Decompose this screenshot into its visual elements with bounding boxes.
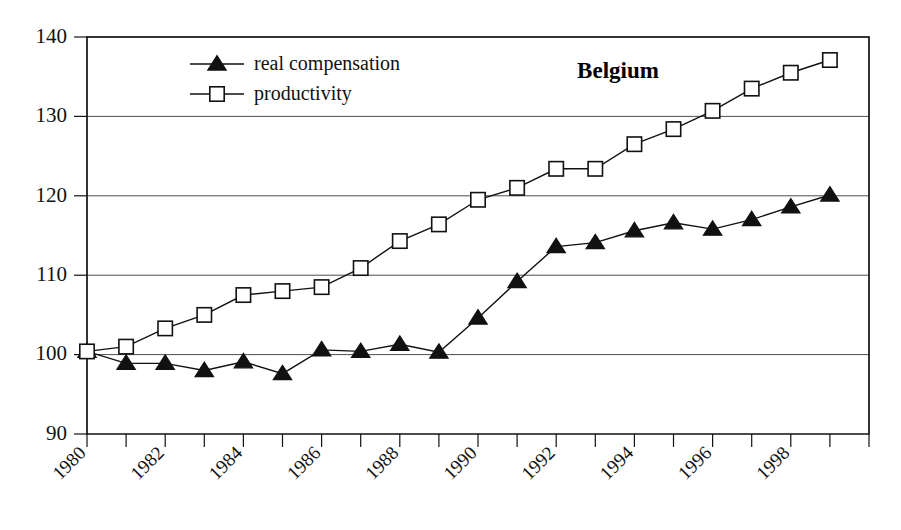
data-point-marker	[784, 66, 798, 80]
data-point-marker	[821, 187, 839, 201]
data-point-marker	[393, 234, 407, 248]
x-axis-ticks	[87, 434, 869, 447]
data-point-marker	[117, 355, 135, 369]
data-point-marker	[236, 288, 250, 302]
data-point-marker	[156, 355, 174, 369]
chart-legend: real compensationproductivity	[190, 52, 400, 105]
y-tick-label: 120	[36, 183, 68, 207]
y-axis-labels: 90100110120130140	[36, 24, 68, 445]
data-point-marker	[705, 104, 719, 118]
data-point-marker	[275, 284, 289, 298]
x-axis-labels: 1980198219841986198819901992199419961998	[48, 442, 794, 484]
data-point-marker	[80, 344, 94, 358]
data-point-marker	[666, 122, 680, 136]
data-point-marker	[588, 162, 602, 176]
data-point-marker	[314, 280, 328, 294]
series-real-compensation	[78, 187, 839, 380]
data-point-marker	[782, 199, 800, 213]
legend-marker-open-square	[210, 87, 224, 101]
x-tick-label: 1984	[205, 442, 247, 484]
legend-entry: productivity	[190, 82, 352, 105]
chart-title: Belgium	[577, 58, 659, 83]
x-tick-label: 1986	[283, 442, 325, 484]
data-point-marker	[273, 365, 291, 379]
x-tick-label: 1988	[361, 442, 403, 484]
y-tick-label: 90	[46, 421, 67, 445]
data-point-marker	[627, 137, 641, 151]
x-tick-label: 1994	[596, 442, 638, 484]
data-point-marker	[586, 234, 604, 248]
data-point-marker	[119, 339, 133, 353]
x-tick-label: 1996	[674, 442, 716, 484]
data-point-marker	[510, 181, 524, 195]
legend-marker-filled-triangle	[208, 56, 226, 70]
data-point-marker	[197, 308, 211, 322]
data-point-marker	[432, 217, 446, 231]
y-tick-label: 100	[36, 341, 68, 365]
x-tick-label: 1982	[126, 442, 168, 484]
data-point-marker	[234, 353, 252, 367]
data-point-marker	[823, 53, 837, 67]
data-point-marker	[158, 321, 172, 335]
y-tick-label: 110	[36, 262, 67, 286]
chart-container: 1980198219841986198819901992199419961998…	[0, 0, 901, 530]
data-point-marker	[664, 214, 682, 228]
legend-entry: real compensation	[190, 52, 400, 75]
data-point-marker	[471, 193, 485, 207]
y-tick-label: 140	[36, 24, 68, 48]
legend-label: real compensation	[254, 52, 400, 75]
x-tick-label: 1998	[752, 442, 794, 484]
x-tick-label: 1992	[517, 442, 559, 484]
data-point-marker	[391, 336, 409, 350]
data-point-marker	[354, 261, 368, 275]
line-chart: 1980198219841986198819901992199419961998…	[0, 0, 901, 530]
data-series	[78, 53, 839, 380]
data-point-marker	[743, 211, 761, 225]
series-productivity	[80, 53, 837, 359]
x-tick-label: 1980	[48, 442, 90, 484]
data-point-marker	[745, 81, 759, 95]
series-line	[87, 195, 830, 374]
data-point-marker	[549, 162, 563, 176]
x-tick-label: 1990	[439, 442, 481, 484]
data-point-marker	[312, 341, 330, 355]
y-tick-label: 130	[36, 103, 68, 127]
y-axis-ticks	[74, 37, 87, 434]
legend-label: productivity	[254, 82, 352, 105]
